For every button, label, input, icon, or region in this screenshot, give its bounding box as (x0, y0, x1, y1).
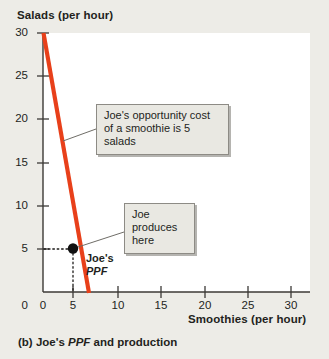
x-tick-label-25: 25 (236, 299, 260, 311)
y-tick-label-5: 5 (4, 242, 28, 254)
y-tick-label-20: 20 (4, 112, 28, 124)
production-point-marker (68, 243, 78, 253)
x-tick-label-10: 10 (106, 299, 130, 311)
x-axis-title: Smoothies (per hour) (188, 313, 306, 325)
y-tick-label-30: 30 (4, 26, 28, 38)
x-tick-label-20: 20 (193, 299, 217, 311)
ppf-curve-label: Joe's PPF (86, 252, 114, 277)
x-tick-label-15: 15 (149, 299, 173, 311)
callout-opportunity-cost: Joe's opportunity cost of a smoothie is … (96, 104, 229, 155)
figure-caption-prefix: (b) Joe's (18, 336, 68, 348)
figure-caption: (b) Joe's PPF and production (18, 336, 177, 348)
leader-line-produces-here (75, 232, 124, 248)
ppf-figure: Salads (per hour) Smoothies (per hour) 0… (0, 0, 329, 359)
y-tick-label-25: 25 (4, 69, 28, 81)
x-tick-label-30: 30 (279, 299, 303, 311)
ppf-line (44, 33, 90, 293)
x-tick-label-5: 5 (61, 299, 85, 311)
callout-produces-here: Joe produces here (124, 203, 195, 254)
figure-caption-abbr: PPF (68, 336, 90, 348)
figure-caption-suffix: and production (90, 336, 177, 348)
ppf-curve-label-prefix: Joe's (86, 252, 114, 264)
y-tick-label-15: 15 (4, 156, 28, 168)
y-axis-title: Salads (per hour) (17, 9, 113, 21)
ppf-curve-label-abbr: PPF (86, 265, 107, 277)
x-tick-label-0: 0 (31, 299, 55, 311)
y-tick-label-0: 0 (4, 299, 28, 311)
leader-line-opportunity-cost (63, 129, 96, 141)
y-tick-label-10: 10 (4, 199, 28, 211)
